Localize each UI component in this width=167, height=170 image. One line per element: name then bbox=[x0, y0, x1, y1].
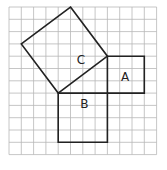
grid bbox=[9, 7, 157, 155]
square-label-b: B bbox=[80, 97, 88, 111]
square-label-c: C bbox=[77, 53, 85, 67]
pythagoras-diagram: ABC bbox=[0, 0, 167, 170]
square-label-a: A bbox=[121, 70, 130, 84]
square-c bbox=[21, 7, 107, 93]
